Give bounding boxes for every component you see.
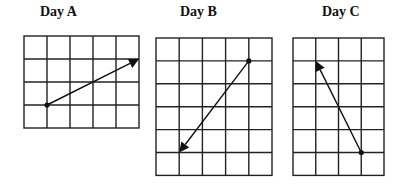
day-c-start-dot [359,150,364,155]
day-c-grid [0,0,403,184]
day-c-vector-line [320,70,361,153]
